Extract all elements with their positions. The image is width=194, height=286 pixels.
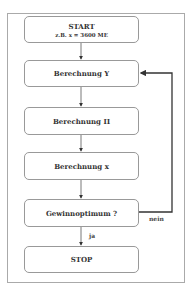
- decision-label: Gewinnoptimum ?: [46, 209, 117, 218]
- start-node: START z.B. x = 3600 ME: [24, 16, 139, 43]
- start-subtitle: z.B. x = 3600 ME: [55, 32, 108, 38]
- step-label: Berechnung Y: [54, 69, 109, 78]
- step-berechnung-pi: Berechnung Π: [24, 107, 139, 135]
- step-berechnung-y: Berechnung Y: [24, 60, 139, 87]
- no-label: nein: [149, 215, 164, 222]
- step-label: Berechnung Π: [53, 117, 110, 126]
- yes-label: ja: [89, 232, 95, 239]
- step-label: Berechnung x: [54, 162, 109, 171]
- step-berechnung-x: Berechnung x: [24, 152, 139, 180]
- start-title: START: [68, 22, 94, 31]
- decision-node: Gewinnoptimum ?: [24, 199, 139, 227]
- stop-node: STOP: [24, 246, 139, 273]
- stop-label: STOP: [71, 255, 93, 264]
